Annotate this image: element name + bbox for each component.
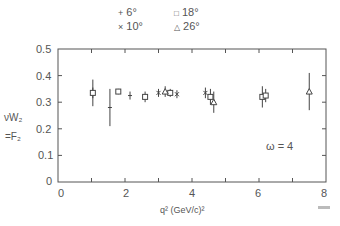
data-point-x [175, 90, 179, 98]
plot-frame [58, 49, 326, 182]
data-points [90, 73, 312, 126]
data-point-square [116, 89, 121, 94]
data-point-plus [108, 89, 112, 126]
data-point-square [168, 89, 173, 97]
data-point-triangle [306, 73, 312, 110]
ticks [58, 49, 326, 182]
data-point-plus [128, 92, 132, 100]
plot-area [0, 0, 340, 226]
figure-number [318, 206, 330, 209]
data-point-x [157, 89, 161, 97]
data-point-square [263, 89, 268, 102]
data-point-x [203, 88, 207, 99]
data-point-square [143, 92, 148, 103]
data-point-square [90, 88, 95, 99]
